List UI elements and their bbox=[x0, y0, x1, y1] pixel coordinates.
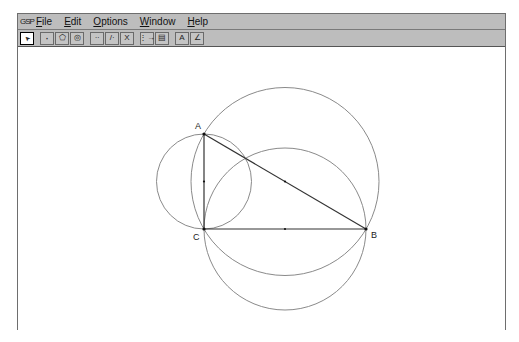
transform-icon: ⋮→ bbox=[139, 34, 155, 42]
toolbox: ➤ · ⬠ ◎ ∙∙ /∙ X ⋮→ ▤ A ∠ bbox=[18, 30, 505, 47]
menu-bar: GSP File Edit Options Window Help bbox=[18, 14, 505, 30]
menu-window-rest: indow bbox=[149, 16, 175, 27]
polygon-tool[interactable]: ⬠ bbox=[55, 32, 69, 45]
menu-file[interactable]: File bbox=[36, 16, 52, 27]
menu-edit-mnemonic: E bbox=[64, 16, 71, 27]
measure-tool[interactable]: ▤ bbox=[155, 32, 169, 45]
menu-help-rest: elp bbox=[195, 16, 208, 27]
transform-tool[interactable]: ⋮→ bbox=[140, 32, 154, 45]
measure-icon: ▤ bbox=[158, 34, 166, 42]
custom-tool[interactable]: ∠ bbox=[190, 32, 204, 45]
menu-edit[interactable]: Edit bbox=[64, 16, 81, 27]
sketchpad-window: GSP File Edit Options Window Help ➤ · ⬠ … bbox=[17, 13, 506, 330]
line-icon: X bbox=[124, 34, 129, 42]
menu-window-mnemonic: W bbox=[140, 16, 149, 27]
midpoint-CB[interactable] bbox=[284, 228, 286, 230]
menu-help[interactable]: Help bbox=[187, 16, 208, 27]
segment-icon: ∙∙ bbox=[95, 34, 99, 42]
menu-options-mnemonic: O bbox=[93, 16, 101, 27]
arrow-icon: ➤ bbox=[22, 33, 31, 42]
ray-tool[interactable]: /∙ bbox=[105, 32, 119, 45]
ray-icon: /∙ bbox=[110, 34, 114, 42]
midpoint-AC[interactable] bbox=[203, 180, 205, 182]
point-icon: · bbox=[45, 32, 49, 44]
text-tool[interactable]: A bbox=[175, 32, 189, 45]
point-C[interactable] bbox=[202, 227, 205, 230]
menu-options[interactable]: Options bbox=[93, 16, 127, 27]
sketch-canvas[interactable]: A B C bbox=[18, 47, 505, 330]
line-tool[interactable]: X bbox=[120, 32, 134, 45]
label-B[interactable]: B bbox=[371, 230, 377, 240]
arrow-select-tool[interactable]: ➤ bbox=[20, 32, 34, 45]
menu-file-rest: ile bbox=[42, 16, 52, 27]
circle-icon: ◎ bbox=[74, 34, 81, 42]
geometry-drawing[interactable]: A B C bbox=[18, 47, 505, 330]
point-tool[interactable]: · bbox=[40, 32, 54, 45]
segment-tool[interactable]: ∙∙ bbox=[90, 32, 104, 45]
menu-window[interactable]: Window bbox=[140, 16, 176, 27]
point-A[interactable] bbox=[202, 132, 205, 135]
text-icon: A bbox=[179, 34, 184, 42]
custom-tool-icon: ∠ bbox=[194, 34, 201, 42]
polygon-icon: ⬠ bbox=[59, 34, 66, 42]
menu-options-rest: ptions bbox=[101, 16, 128, 27]
label-A[interactable]: A bbox=[195, 121, 201, 131]
circle-tool[interactable]: ◎ bbox=[70, 32, 84, 45]
label-C[interactable]: C bbox=[193, 232, 200, 242]
menu-edit-rest: dit bbox=[71, 16, 82, 27]
menu-help-mnemonic: H bbox=[187, 16, 194, 27]
point-B[interactable] bbox=[364, 227, 367, 230]
sketchpad-icon[interactable]: GSP bbox=[20, 16, 32, 27]
midpoint-AB[interactable] bbox=[284, 180, 286, 182]
